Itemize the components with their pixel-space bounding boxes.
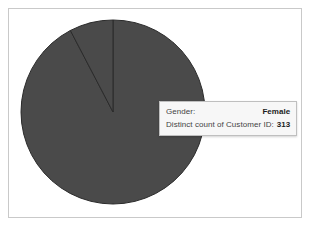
chart-tooltip: Gender: Female Distinct count of Custome… [159, 101, 297, 136]
pie-chart-visualization: Gender: Female Distinct count of Custome… [0, 0, 312, 228]
tooltip-value-customer-count: 313 [274, 119, 291, 130]
tooltip-row-customer-count: Distinct count of Customer ID: 313 [166, 119, 290, 130]
tooltip-label-gender: Gender: [166, 106, 195, 117]
tooltip-value-gender: Female [252, 106, 290, 117]
tooltip-label-customer-count: Distinct count of Customer ID: [166, 119, 274, 130]
chart-frame: Gender: Female Distinct count of Custome… [8, 8, 302, 218]
tooltip-row-gender: Gender: Female [166, 106, 290, 117]
